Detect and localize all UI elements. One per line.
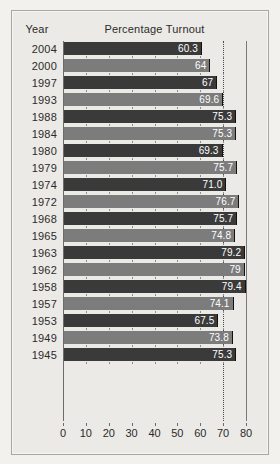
- bar-row: 200064: [63, 58, 246, 75]
- year-label: 1949: [12, 332, 57, 344]
- bar-value-label: 71.0: [203, 179, 226, 190]
- bar: 69.3: [64, 144, 223, 157]
- year-label: 1974: [12, 179, 57, 191]
- year-label: 1962: [12, 264, 57, 276]
- bar-value-label: 75.3: [212, 349, 235, 360]
- bar: 79.2: [64, 246, 245, 259]
- x-axis-tick: [109, 423, 110, 426]
- bar: 75.7: [64, 161, 237, 174]
- bar: 75.3: [64, 127, 236, 140]
- bar-row: 196279: [63, 262, 246, 279]
- bar-rows: 200460.3200064199767199369.6198875.31984…: [63, 41, 246, 364]
- bar-row: 197276.7: [63, 194, 246, 211]
- x-axis-tick: [155, 423, 156, 426]
- year-label: 1997: [12, 77, 57, 89]
- bar: 60.3: [64, 42, 202, 55]
- x-axis: 01020304050607080: [63, 423, 246, 443]
- bar-row: 198069.3: [63, 143, 246, 160]
- x-axis-tick-label: 40: [148, 427, 160, 439]
- year-label: 1963: [12, 247, 57, 259]
- bar-value-label: 69.6: [199, 94, 222, 105]
- bar: 74.8: [64, 229, 235, 242]
- bar: 75.3: [64, 348, 236, 361]
- plot-area: 200460.3200064199767199369.6198875.31984…: [12, 41, 270, 421]
- x-axis-tick-label: 60: [194, 427, 206, 439]
- bar-row: 197975.7: [63, 160, 246, 177]
- bar: 73.8: [64, 331, 233, 344]
- bar-row: 196875.7: [63, 211, 246, 228]
- bar-value-label: 75.3: [212, 111, 235, 122]
- x-axis-tick: [200, 423, 201, 426]
- x-axis-tick: [223, 423, 224, 426]
- year-label: 2000: [12, 60, 57, 72]
- bar-value-label: 76.7: [216, 196, 239, 207]
- bar-value-label: 69.3: [199, 145, 222, 156]
- x-axis-tick-label: 50: [171, 427, 183, 439]
- x-axis-tick-label: 80: [240, 427, 252, 439]
- x-axis-tick-label: 70: [217, 427, 229, 439]
- bar-row: 199767: [63, 75, 246, 92]
- year-label: 1979: [12, 162, 57, 174]
- bar-value-label: 75.7: [213, 162, 236, 173]
- bar: 67: [64, 76, 217, 89]
- chart-panel: Year Percentage Turnout 200460.320006419…: [11, 10, 269, 455]
- bar-row: 199369.6: [63, 92, 246, 109]
- year-label: 1957: [12, 298, 57, 310]
- bar: 67.5: [64, 314, 218, 327]
- bar-row: 196574.8: [63, 228, 246, 245]
- year-label: 1972: [12, 196, 57, 208]
- bar: 64: [64, 59, 210, 72]
- bar-value-label: 75.7: [213, 213, 236, 224]
- bar: 69.6: [64, 93, 223, 106]
- bar-row: 198875.3: [63, 109, 246, 126]
- chart-header: Year Percentage Turnout: [12, 23, 268, 41]
- bar: 79.4: [64, 280, 246, 293]
- bar: 74.1: [64, 297, 234, 310]
- year-column-header: Year: [12, 23, 62, 35]
- bar-row: 195879.4: [63, 279, 246, 296]
- year-label: 1984: [12, 128, 57, 140]
- bar-value-label: 67: [202, 77, 216, 88]
- year-label: 1965: [12, 230, 57, 242]
- x-axis-tick-label: 10: [80, 427, 92, 439]
- bar-value-label: 64: [195, 60, 209, 71]
- bar-value-label: 60.3: [178, 43, 201, 54]
- bar: 75.3: [64, 110, 236, 123]
- bar-value-label: 79.2: [221, 247, 244, 258]
- bar-row: 198475.3: [63, 126, 246, 143]
- bar-value-label: 74.1: [210, 298, 233, 309]
- year-label: 1993: [12, 94, 57, 106]
- bar-value-label: 74.8: [211, 230, 234, 241]
- x-axis-tick: [63, 423, 64, 426]
- x-axis-tick: [177, 423, 178, 426]
- bar-value-label: 79.4: [222, 281, 245, 292]
- bar: 79: [64, 263, 245, 276]
- x-axis-tick: [132, 423, 133, 426]
- x-axis-tick: [246, 423, 247, 426]
- chart-title: Percentage Turnout: [62, 23, 247, 35]
- x-axis-tick-label: 30: [126, 427, 138, 439]
- bar-value-label: 67.5: [195, 315, 218, 326]
- year-label: 1945: [12, 349, 57, 361]
- axis-max-line: [246, 41, 247, 421]
- bar-row: 196379.2: [63, 245, 246, 262]
- row-tick-marks: [63, 362, 246, 364]
- bar-row: 195774.1: [63, 296, 246, 313]
- bar-row: 194575.3: [63, 347, 246, 364]
- x-axis-tick: [86, 423, 87, 426]
- year-label: 1980: [12, 145, 57, 157]
- bar-row: 197471.0: [63, 177, 246, 194]
- bar-row: 200460.3: [63, 41, 246, 58]
- x-axis-tick-label: 20: [103, 427, 115, 439]
- plot-inner: 200460.3200064199767199369.6198875.31984…: [63, 41, 246, 421]
- bar: 76.7: [64, 195, 239, 208]
- year-label: 1958: [12, 281, 57, 293]
- bar: 75.7: [64, 212, 237, 225]
- bar-value-label: 79: [229, 264, 243, 275]
- bar-row: 194973.8: [63, 330, 246, 347]
- year-label: 1988: [12, 111, 57, 123]
- year-label: 1953: [12, 315, 57, 327]
- bar-row: 195367.5: [63, 313, 246, 330]
- year-label: 1968: [12, 213, 57, 225]
- x-axis-tick-label: 0: [60, 427, 66, 439]
